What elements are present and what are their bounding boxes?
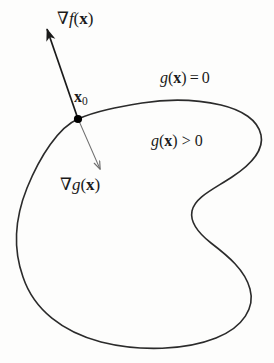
feasible-region-label: g(x)>0 [151, 133, 203, 149]
gradient-f-label: ∇f(x) [57, 10, 93, 27]
constraint-boundary-label: g(x)=0 [160, 70, 210, 86]
gradient-g-label: ∇g(x) [60, 176, 100, 193]
nabla-icon: ∇ [60, 175, 72, 194]
paren-close: ) [88, 9, 94, 28]
paren-close: ) [95, 175, 101, 194]
greater-than-sign: > [178, 132, 195, 149]
gradient-g-arrow [79, 121, 100, 169]
subscript-zero: 0 [82, 95, 88, 107]
paren-close: ) [172, 132, 177, 149]
value-zero: 0 [202, 69, 210, 86]
nabla-icon: ∇ [57, 9, 69, 28]
function-g-symbol: g [160, 69, 168, 86]
constraint-boundary-curve [17, 100, 262, 348]
figure-canvas [0, 0, 274, 363]
point-x0-label: x0 [74, 89, 88, 108]
vector-x-symbol: x [74, 88, 82, 105]
paren-close: ) [181, 69, 186, 86]
point-x0-marker [74, 115, 82, 123]
equals-sign: = [187, 69, 202, 86]
value-zero: 0 [195, 132, 203, 149]
vector-x-symbol: x [86, 175, 95, 194]
function-g-symbol: g [151, 132, 159, 149]
vector-x-symbol: x [79, 9, 88, 28]
gradient-constraint-figure: ∇f(x) x0 ∇g(x) g(x)=0 g(x)>0 [0, 0, 274, 363]
